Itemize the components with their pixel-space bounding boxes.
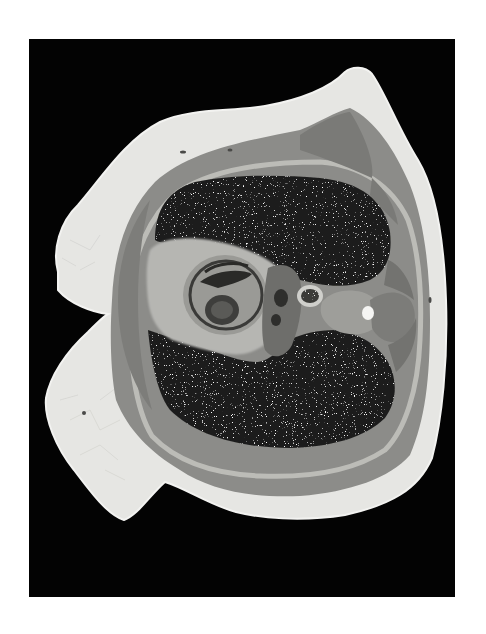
spinal-canal xyxy=(362,306,374,320)
cross-section-illustration xyxy=(29,39,455,597)
specimen-photo xyxy=(29,39,455,597)
heart xyxy=(183,255,267,335)
